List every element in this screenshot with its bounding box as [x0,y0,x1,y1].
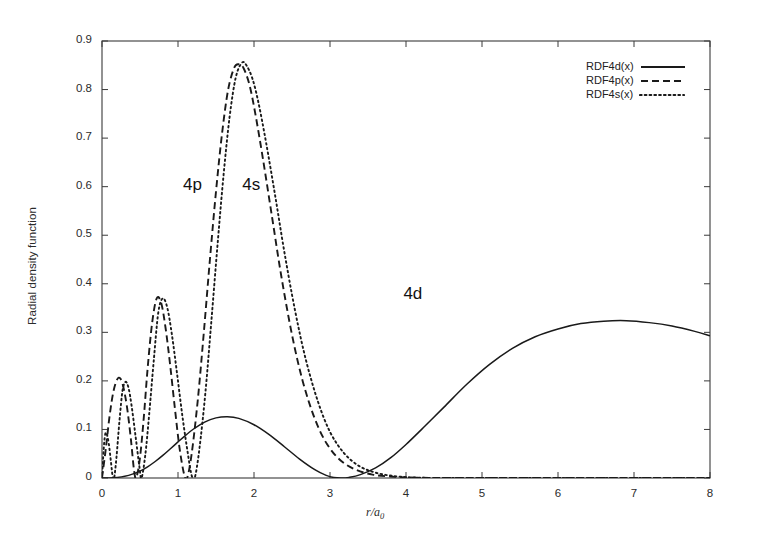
x-tick-label: 6 [546,487,570,499]
legend-line-sample [640,62,686,71]
y-tick-label: 0.9 [58,33,92,45]
y-tick-label: 0.3 [58,324,92,336]
legend-line-sample [639,90,685,99]
curve-annotation-4p: 4p [183,175,202,195]
legend-item: RDF4d(x) [586,59,698,73]
x-axis-label-main: r/a [366,505,380,519]
legend-label: RDF4d(x) [586,60,634,72]
plot-frame [102,41,710,478]
curve-annotation-4s: 4s [242,175,260,195]
legend-item: RDF4s(x) [586,87,698,101]
legend-label: RDF4p(x) [586,74,634,86]
y-tick-label: 0 [58,470,92,482]
x-tick-label: 1 [166,487,190,499]
y-tick-label: 0.5 [58,227,92,239]
legend-label: RDF4s(x) [586,88,633,100]
legend-line-sample [640,76,686,85]
y-tick-label: 0.7 [58,130,92,142]
y-tick-label: 0.2 [58,373,92,385]
series-line-rdf4dx [102,321,710,478]
y-tick-label: 0.1 [58,421,92,433]
chart-figure: Radial density function r/a0 00.10.20.30… [0,0,759,541]
x-tick-label: 7 [622,487,646,499]
legend: RDF4d(x)RDF4p(x)RDF4s(x) [586,59,698,101]
x-axis-label: r/a0 [366,505,384,521]
x-tick-label: 5 [470,487,494,499]
x-axis-label-subscript: 0 [380,511,384,521]
series-line-rdf4px [102,64,710,479]
y-tick-label: 0.4 [58,276,92,288]
x-tick-label: 8 [698,487,722,499]
y-tick-label: 0.6 [58,179,92,191]
series-line-rdf4sx [102,62,710,480]
y-axis-label: Radial density function [26,171,38,361]
x-tick-label: 0 [90,487,114,499]
x-tick-label: 4 [394,487,418,499]
legend-item: RDF4p(x) [586,73,698,87]
y-tick-label: 0.8 [58,82,92,94]
series-layer [102,62,710,480]
x-tick-label: 3 [318,487,342,499]
curve-annotation-4d: 4d [403,284,422,304]
x-tick-label: 2 [242,487,266,499]
